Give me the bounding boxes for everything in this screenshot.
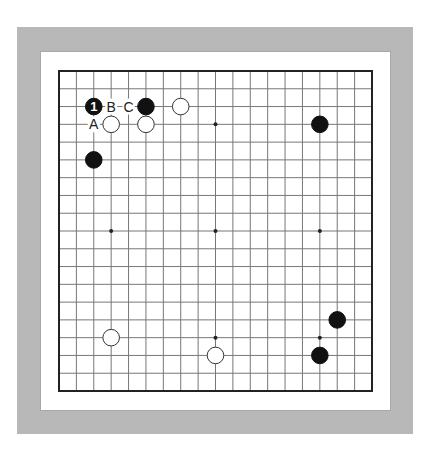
white-stone [103,329,120,346]
black-stone [85,152,102,169]
go-board: BCA 1 [0,0,436,456]
black-stone [138,98,155,115]
letter-mark-a: A [89,116,99,132]
star-point [214,229,218,233]
white-stone [138,116,155,133]
star-point [214,122,218,126]
black-stone [312,116,329,133]
black-stone [329,312,346,329]
star-point [109,229,113,233]
star-point [318,336,322,340]
letter-mark-b: B [106,99,115,115]
white-stone [207,347,224,364]
black-stone [312,347,329,364]
white-stone [103,116,120,133]
white-stone [172,98,189,115]
stone-move-number: 1 [90,99,97,114]
letter-mark-c: C [123,99,133,115]
star-point [318,229,322,233]
black-stone: 1 [85,98,102,115]
star-point [214,336,218,340]
